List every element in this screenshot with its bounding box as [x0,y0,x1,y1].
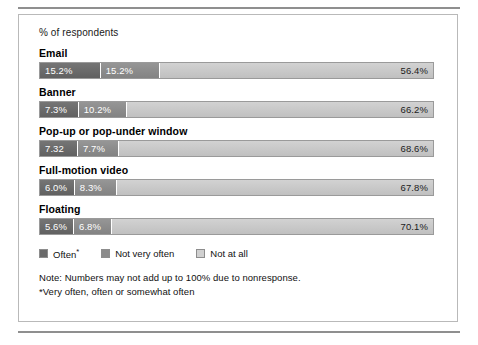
bar-segment-not-very-often: 6.8% [73,219,111,234]
legend-label: Not at all [210,248,248,259]
stacked-bar: 5.6% 6.8% 70.1% [39,218,434,235]
chart-content: % of respondents Email 15.2% 15.2% 56.4%… [39,27,445,299]
legend-swatch-icon [39,249,48,258]
legend-label: Often* [53,247,79,260]
chart-legend: Often* Not very often Not at all [39,247,445,260]
bar-segment-often: 7.3% [40,102,78,117]
bar-segment-often: 15.2% [40,63,100,78]
legend-item-not-at-all: Not at all [196,248,248,259]
bar-segment-often: 6.0% [40,180,74,195]
bar-segment-not-very-often: 8.3% [74,180,116,195]
category-label: Pop-up or pop-under window [39,125,445,137]
segment-value-label: 7.3% [40,104,72,115]
segment-value-label: 10.2% [79,104,116,115]
legend-item-often: Often* [39,247,79,260]
category-label: Full-motion video [39,164,445,176]
stacked-bar: 6.0% 8.3% 67.8% [39,179,434,196]
legend-label: Not very often [115,248,174,259]
category-group-banner: Banner 7.3% 10.2% 66.2% [39,86,445,118]
segment-value-label: 6.0% [40,182,72,193]
segment-value-label: 7.7% [78,143,110,154]
segment-value-label: 56.4% [396,65,433,76]
bar-segment-not-at-all: 70.1% [111,219,433,234]
category-group-popup: Pop-up or pop-under window 7.32 7.7% 68.… [39,125,445,157]
segment-value-label: 68.6% [396,143,433,154]
category-label: Floating [39,203,445,215]
chart-note-footnote: *Very often, often or somewhat often [39,285,445,299]
top-divider-rule [18,7,460,9]
bottom-divider-rule [18,331,460,333]
segment-value-label: 70.1% [396,221,433,232]
segment-value-label: 15.2% [101,65,138,76]
segment-value-label: 6.8% [74,221,106,232]
category-label: Banner [39,86,445,98]
category-group-floating: Floating 5.6% 6.8% 70.1% [39,203,445,235]
bar-segment-not-very-often: 15.2% [100,63,160,78]
segment-value-label: 66.2% [396,104,433,115]
stacked-bar: 7.3% 10.2% 66.2% [39,101,434,118]
segment-value-label: 67.8% [396,182,433,193]
category-label: Email [39,47,445,59]
bar-segment-not-very-often: 10.2% [78,102,127,117]
segment-value-label: 8.3% [75,182,107,193]
category-group-email: Email 15.2% 15.2% 56.4% [39,47,445,79]
bar-segment-not-at-all: 67.8% [116,180,433,195]
axis-label-respondents: % of respondents [39,27,445,38]
legend-item-not-very-often: Not very often [101,248,174,259]
bar-segment-not-very-often: 7.7% [77,141,118,156]
bar-segment-often: 5.6% [40,219,73,234]
chart-panel: % of respondents Email 15.2% 15.2% 56.4%… [18,14,458,322]
segment-value-label: 7.32 [40,143,69,154]
category-group-full-motion-video: Full-motion video 6.0% 8.3% 67.8% [39,164,445,196]
stacked-bar: 7.32 7.7% 68.6% [39,140,434,157]
bar-segment-not-at-all: 68.6% [118,141,433,156]
bar-segment-often: 7.32 [40,141,77,156]
legend-label-text: Often [53,249,76,260]
segment-value-label: 5.6% [40,221,72,232]
bar-segment-not-at-all: 66.2% [126,102,433,117]
segment-value-label: 15.2% [40,65,77,76]
bar-segment-not-at-all: 56.4% [159,63,433,78]
stacked-bar: 15.2% 15.2% 56.4% [39,62,434,79]
chart-note-nonresponse: Note: Numbers may not add up to 100% due… [39,271,445,285]
legend-swatch-icon [196,249,205,258]
legend-swatch-icon [101,249,110,258]
